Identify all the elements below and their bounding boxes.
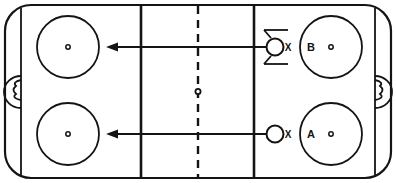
zone-label-a: A [307,128,315,140]
rink-canvas: B A X X [0,0,396,183]
faceoff-dot-left-bottom [66,132,70,136]
faceoff-dot-right-top [329,45,333,49]
player-label-b: X [285,42,292,53]
player-circle-a-icon [267,126,284,143]
center-ice-dot [195,89,200,94]
player-circle-b-icon [267,39,284,56]
faceoff-dot-left-top [66,45,70,49]
hockey-rink-diagram: B A X X [0,0,396,183]
player-label-a: X [285,129,292,140]
faceoff-dot-right-bottom [329,132,333,136]
zone-label-b: B [307,41,315,53]
player-marker-a: X [267,126,292,143]
